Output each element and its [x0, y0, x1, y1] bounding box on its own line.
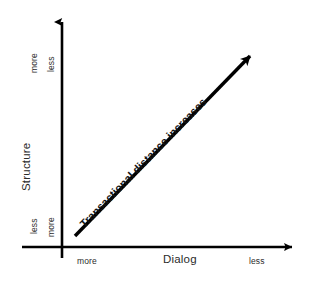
transactional-distance-figure: more less Structure less more more less … [0, 0, 319, 289]
clipped-caption [6, 281, 313, 289]
y-axis-label-bottom-more: more [47, 217, 56, 237]
y-axis-label-top-less: less [47, 56, 56, 72]
y-axis-label-bottom-less: less [30, 218, 39, 234]
y-axis-title: Structure [21, 143, 33, 191]
x-axis-title: Dialog [163, 254, 197, 266]
y-axis-label-top-more: more [30, 53, 39, 73]
x-axis-label-less: less [249, 257, 265, 266]
x-axis-label-more: more [77, 257, 97, 266]
